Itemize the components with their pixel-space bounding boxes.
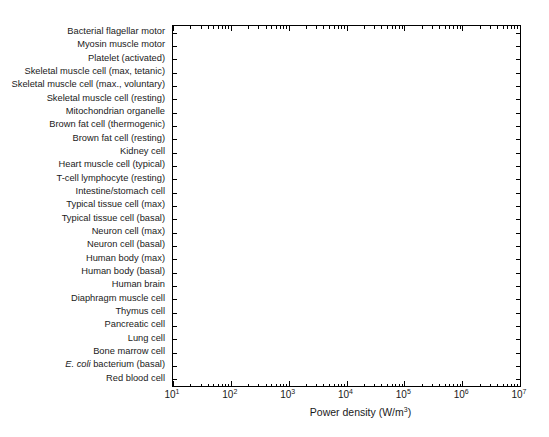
x-tick-minor-bottom (258, 384, 259, 387)
x-tick-minor-bottom (517, 384, 518, 387)
x-tick-minor-top (381, 26, 382, 29)
x-tick-minor-bottom (374, 384, 375, 387)
x-tick-major-bottom (347, 381, 348, 386)
x-tick-minor-top (201, 26, 202, 29)
x-tick-minor-bottom (497, 384, 498, 387)
y-axis-label: Bacterial flagellar motor (67, 25, 165, 38)
x-tick-minor-bottom (306, 384, 307, 387)
x-tick-minor-bottom (392, 384, 393, 387)
y-tick-right (516, 166, 520, 167)
y-axis-label: Brown fat cell (resting) (73, 132, 165, 145)
y-axis-label: Skeletal muscle cell (max., voluntary) (12, 78, 165, 91)
y-tick-right (516, 153, 520, 154)
y-tick-right (516, 339, 520, 340)
x-tick-minor-bottom (507, 384, 508, 387)
y-axis-labels: Bacterial flagellar motorMyosin muscle m… (0, 25, 169, 385)
y-tick-left (173, 166, 177, 167)
y-axis-label: Heart muscle cell (typical) (59, 158, 165, 171)
x-tick-minor-bottom (399, 384, 400, 387)
y-axis-label: Human body (max) (86, 252, 165, 265)
x-tick-minor-top (480, 26, 481, 29)
y-axis-label: Neuron cell (basal) (87, 238, 165, 251)
x-tick-major-top (520, 26, 521, 31)
y-tick-right (516, 179, 520, 180)
x-tick-minor-top (213, 26, 214, 29)
y-tick-right (516, 273, 520, 274)
y-tick-right (516, 206, 520, 207)
x-tick-label: 103 (280, 389, 295, 400)
x-tick-minor-top (490, 26, 491, 29)
x-tick-major-bottom (173, 381, 174, 386)
y-tick-right (516, 33, 520, 34)
x-tick-minor-top (445, 26, 446, 29)
y-tick-right (516, 46, 520, 47)
x-tick-minor-top (514, 26, 515, 29)
y-tick-right (516, 246, 520, 247)
x-tick-minor-top (266, 26, 267, 29)
x-tick-major-top (347, 26, 348, 31)
x-tick-minor-top (248, 26, 249, 29)
x-tick-minor-top (439, 26, 440, 29)
x-tick-minor-top (402, 26, 403, 29)
x-tick-minor-top (208, 26, 209, 29)
x-tick-minor-bottom (201, 384, 202, 387)
y-axis-label: Brown fat cell (thermogenic) (49, 118, 165, 131)
x-tick-label: 101 (164, 389, 179, 400)
x-tick-minor-top (460, 26, 461, 29)
y-tick-left (173, 153, 177, 154)
x-tick-major-top (462, 26, 463, 31)
y-axis-label: Pancreatic cell (105, 318, 165, 331)
x-tick-minor-bottom (228, 384, 229, 387)
x-tick-minor-top (276, 26, 277, 29)
x-tick-minor-bottom (190, 384, 191, 387)
x-tick-minor-bottom (280, 384, 281, 387)
y-tick-right (516, 113, 520, 114)
y-axis-label: Human body (basal) (81, 265, 165, 278)
y-tick-left (173, 206, 177, 207)
y-tick-left (173, 59, 177, 60)
x-tick-minor-top (399, 26, 400, 29)
y-tick-left (173, 313, 177, 314)
x-tick-minor-top (374, 26, 375, 29)
x-tick-minor-bottom (364, 384, 365, 387)
x-tick-minor-top (507, 26, 508, 29)
y-tick-left (173, 46, 177, 47)
x-tick-major-top (404, 26, 405, 31)
y-tick-left (173, 233, 177, 234)
x-tick-minor-top (364, 26, 365, 29)
x-tick-minor-bottom (338, 384, 339, 387)
x-tick-minor-top (511, 26, 512, 29)
y-axis-label: Thymus cell (115, 305, 165, 318)
x-tick-minor-bottom (218, 384, 219, 387)
y-tick-right (516, 126, 520, 127)
y-tick-left (173, 339, 177, 340)
y-tick-left (173, 286, 177, 287)
y-tick-left (173, 379, 177, 380)
y-tick-right (516, 299, 520, 300)
y-axis-label: Skeletal muscle cell (max, tetanic) (24, 65, 165, 78)
y-axis-label: Red blood cell (106, 372, 165, 385)
x-tick-minor-bottom (341, 384, 342, 387)
x-tick-minor-bottom (283, 384, 284, 387)
x-tick-label: 102 (222, 389, 237, 400)
y-tick-right (516, 313, 520, 314)
x-tick-minor-top (338, 26, 339, 29)
x-tick-minor-bottom (445, 384, 446, 387)
y-axis-label: T-cell lymphocyte (resting) (57, 172, 166, 185)
y-tick-right (516, 73, 520, 74)
y-axis-label: Bone marrow cell (93, 345, 165, 358)
y-axis-label: Neuron cell (max) (92, 225, 165, 238)
x-tick-minor-bottom (344, 384, 345, 387)
x-tick-minor-top (387, 26, 388, 29)
x-tick-major-bottom (231, 381, 232, 386)
x-tick-minor-top (341, 26, 342, 29)
y-tick-right (516, 193, 520, 194)
x-tick-minor-top (395, 26, 396, 29)
y-tick-left (173, 299, 177, 300)
power-density-bar-chart: Bacterial flagellar motorMyosin muscle m… (0, 0, 549, 437)
y-tick-left (173, 73, 177, 74)
y-axis-label: Human brain (112, 278, 165, 291)
y-tick-right (516, 233, 520, 234)
x-tick-minor-bottom (395, 384, 396, 387)
x-tick-minor-top (283, 26, 284, 29)
